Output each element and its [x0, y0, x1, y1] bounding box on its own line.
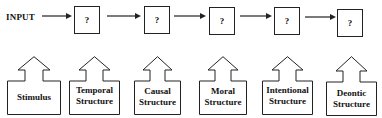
structure-label: Structure: [326, 99, 377, 110]
input-label: INPUT: [6, 12, 35, 22]
structure-label: Structure: [134, 97, 181, 108]
structure-temporal: Temporal Structure: [69, 56, 120, 115]
structure-label: Moral: [199, 86, 247, 97]
arrow-right-icon: [240, 11, 272, 21]
arrow-right-icon: [107, 11, 141, 21]
structure-label: Deontic: [326, 88, 377, 99]
arrow-right-icon: [174, 11, 206, 21]
stage-box: ?: [274, 7, 300, 35]
structure-stimulus: Stimulus: [7, 56, 61, 115]
structure-intentional: Intentional Structure: [262, 56, 313, 115]
up-arrow-box-shape: [7, 56, 61, 115]
arrow-right-icon: [42, 11, 72, 21]
structure-deontic: Deontic Structure: [326, 56, 377, 116]
structure-label: Causal: [134, 86, 181, 97]
structure-label: Intentional: [262, 85, 313, 96]
structure-moral: Moral Structure: [199, 56, 247, 115]
structure-label: Structure: [69, 96, 120, 107]
arrow-right-icon: [305, 12, 336, 22]
stage-box: ?: [144, 6, 170, 34]
stage-box: ?: [209, 7, 235, 35]
structure-label: Stimulus: [7, 92, 61, 103]
stage-box: ?: [74, 6, 100, 34]
stage-box: ?: [337, 9, 363, 37]
structure-label: Structure: [199, 97, 247, 108]
structure-label: Temporal: [69, 85, 120, 96]
structure-label: Structure: [262, 96, 313, 107]
structure-causal: Causal Structure: [134, 56, 181, 115]
